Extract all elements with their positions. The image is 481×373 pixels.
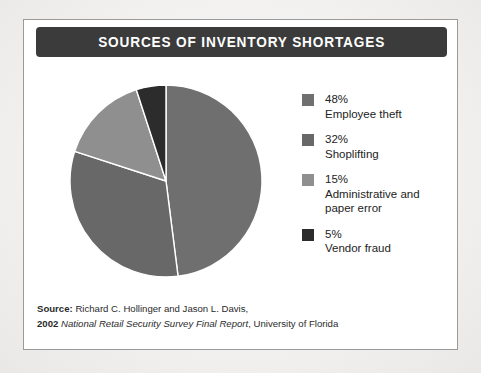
legend-percent-employee-theft: 48%	[325, 92, 402, 107]
source-report-title: National Retail Security Survey Final Re…	[61, 318, 248, 329]
source-label: Source:	[37, 303, 73, 314]
legend-text-vendor-fraud: 5% Vendor fraud	[325, 227, 391, 256]
legend-text-shoplifting: 32% Shoplifting	[325, 132, 379, 161]
legend-percent-shoplifting: 32%	[325, 132, 379, 147]
legend-item-employee-theft: 48% Employee theft	[302, 92, 452, 121]
legend-label-vendor-fraud: Vendor fraud	[325, 241, 391, 256]
legend-label-administrative-error-line2: paper error	[325, 201, 420, 216]
pie-slice	[166, 85, 262, 276]
legend-swatch-icon-vendor-fraud	[302, 229, 314, 241]
legend-swatch-icon-employee-theft	[302, 94, 314, 106]
legend-swatch-icon-administrative-error	[302, 174, 314, 186]
legend-text-employee-theft: 48% Employee theft	[325, 92, 402, 121]
legend-percent-vendor-fraud: 5%	[325, 227, 391, 242]
legend-item-administrative-error: 15% Administrative and paper error	[302, 172, 452, 216]
figure-title-bar: SOURCES OF INVENTORY SHORTAGES	[36, 27, 447, 57]
source-note: Source: Richard C. Hollinger and Jason L…	[37, 301, 437, 331]
legend-swatch-icon-shoplifting	[302, 134, 314, 146]
legend-item-shoplifting: 32% Shoplifting	[302, 132, 452, 161]
source-note-line-1: Source: Richard C. Hollinger and Jason L…	[37, 301, 437, 316]
legend-percent-administrative-error: 15%	[325, 172, 420, 187]
source-publisher: , University of Florida	[248, 318, 338, 329]
source-note-line-2: 2002 National Retail Security Survey Fin…	[37, 316, 437, 331]
legend-label-employee-theft: Employee theft	[325, 107, 402, 122]
chart-legend: 48% Employee theft 32% Shoplifting 15% A…	[302, 92, 452, 267]
legend-label-shoplifting: Shoplifting	[325, 147, 379, 162]
pie-chart	[68, 83, 264, 279]
page-title: SOURCES OF INVENTORY SHORTAGES	[98, 34, 385, 50]
source-year: 2002	[37, 318, 58, 329]
legend-item-vendor-fraud: 5% Vendor fraud	[302, 227, 452, 256]
figure-frame: SOURCES OF INVENTORY SHORTAGES 48% Emplo…	[23, 19, 458, 350]
legend-text-administrative-error: 15% Administrative and paper error	[325, 172, 420, 216]
legend-label-administrative-error-line1: Administrative and	[325, 187, 420, 202]
source-authors: Richard C. Hollinger and Jason L. Davis,	[73, 303, 248, 314]
pie-chart-svg	[68, 83, 264, 279]
